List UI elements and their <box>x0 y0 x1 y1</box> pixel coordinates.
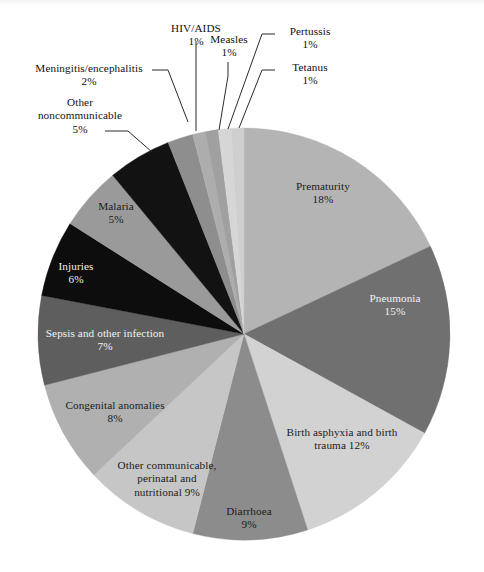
slice-label-pertussis: Pertussis 1% <box>277 25 343 52</box>
slice-label-injuries: Injuries 6% <box>36 260 116 287</box>
slice-label-meningitis: Meningitis/encephalitis 2% <box>24 62 154 89</box>
slice-label-congenital-anomalies: Congenital anomalies 8% <box>45 399 185 426</box>
leader-line-measles <box>219 62 228 130</box>
slice-label-pneumonia: Pneumonia 15% <box>345 292 445 319</box>
slice-label-other-communicable: Other communicable, perinatal and nutrit… <box>97 459 237 499</box>
pie-chart-figure: Prematurity 18% Pneumonia 15% Birth asph… <box>0 0 484 572</box>
slice-label-malaria: Malaria 5% <box>76 200 156 227</box>
leader-line-meningitis <box>152 70 188 122</box>
slice-label-tetanus: Tetanus 1% <box>277 61 343 88</box>
slice-label-measles: Measles 1% <box>196 33 262 60</box>
leader-line-tetanus <box>239 70 275 128</box>
slice-label-diarrhoea: Diarrhoea 9% <box>209 505 289 532</box>
slice-label-birth-asphyxia: Birth asphyxia and birth trauma 12% <box>268 426 416 453</box>
slice-label-other-noncommunicable: Other noncommunicable 5% <box>15 96 145 136</box>
slice-label-sepsis: Sepsis and other infection 7% <box>25 327 185 354</box>
slice-label-prematurity: Prematurity 18% <box>268 180 378 207</box>
